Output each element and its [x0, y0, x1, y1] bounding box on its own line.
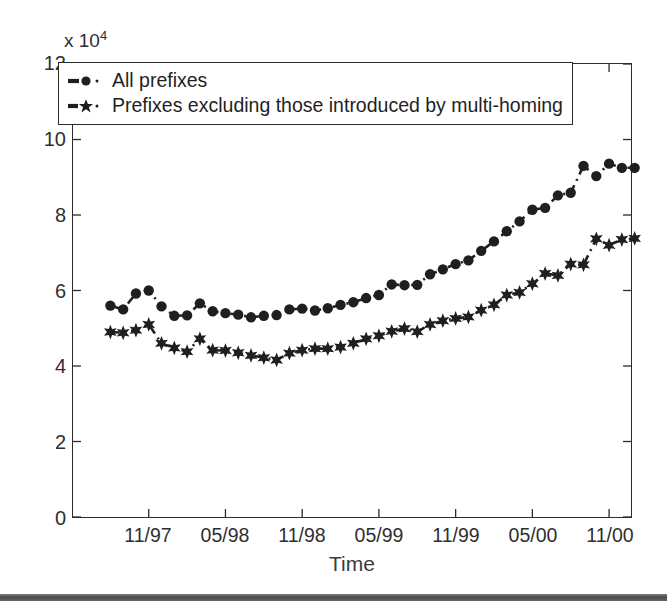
data-point [604, 158, 614, 168]
legend-marker-star-icon [66, 96, 110, 116]
data-point [297, 303, 307, 313]
y-axis-multiplier-label: x 104 [64, 28, 107, 52]
data-point [169, 311, 179, 321]
x-axis-title: Time [72, 552, 632, 576]
data-point [373, 328, 386, 343]
y-axis-tick-label: 10 [44, 127, 66, 150]
y-axis-multiplier-text: x 10 [64, 30, 100, 51]
data-point [399, 280, 409, 290]
series-line [110, 164, 634, 318]
chart-legend: All prefixes Prefixes excluding those in… [58, 62, 573, 125]
x-axis-tick-label: 05/00 [509, 524, 558, 547]
data-point [411, 324, 424, 339]
x-axis-tick-label: 11/99 [432, 524, 479, 547]
legend-marker-circle-icon [66, 71, 110, 91]
series-line [110, 238, 634, 360]
data-point [168, 341, 181, 356]
y-axis-tick-label: 4 [55, 355, 66, 378]
plot-area [72, 63, 632, 518]
legend-item-excluding-multihoming: Prefixes excluding those introduced by m… [66, 93, 563, 118]
data-point [500, 288, 513, 303]
data-point [540, 203, 550, 213]
data-point [259, 311, 269, 321]
data-point [425, 269, 435, 279]
data-point [463, 255, 473, 265]
series-all-prefixes [105, 158, 640, 322]
data-point [361, 293, 371, 303]
y-axis-tick-label: 2 [55, 431, 66, 454]
data-point [514, 216, 524, 226]
y-axis-tick-label: 6 [55, 279, 66, 302]
data-point [310, 305, 320, 315]
data-point [144, 285, 154, 295]
data-point [193, 331, 206, 346]
data-point [387, 279, 397, 289]
data-point [564, 257, 577, 272]
data-point [438, 264, 448, 274]
data-point [412, 280, 422, 290]
data-point [348, 297, 358, 307]
data-point [271, 310, 281, 320]
data-point [489, 236, 499, 246]
plot-canvas [73, 64, 631, 517]
data-point [284, 304, 294, 314]
x-axis-tick-labels: 11/9705/9811/9805/9911/9905/0011/00 [72, 524, 632, 552]
series-excluding-multihoming [104, 231, 641, 367]
y-axis-tick-label: 8 [55, 203, 66, 226]
data-point [347, 336, 360, 351]
legend-label-all-prefixes: All prefixes [110, 71, 207, 91]
x-axis-tick-label: 11/98 [278, 524, 325, 547]
data-point [424, 317, 437, 332]
y-axis-multiplier-exponent: 4 [100, 28, 107, 43]
data-point [629, 163, 639, 173]
data-point [385, 324, 398, 339]
data-point [182, 310, 192, 320]
data-point [270, 353, 283, 368]
data-point [615, 232, 628, 247]
data-point [502, 226, 512, 236]
data-point [283, 346, 296, 361]
data-point [131, 288, 141, 298]
data-point [475, 303, 488, 318]
y-axis-tick-label: 0 [55, 507, 66, 530]
data-point [323, 303, 333, 313]
data-point [603, 238, 616, 253]
data-point [578, 161, 588, 171]
data-point [553, 190, 563, 200]
x-axis-tick-label: 11/00 [586, 524, 633, 547]
data-point [220, 308, 230, 318]
data-point [156, 301, 166, 311]
data-point [105, 300, 115, 310]
data-point [488, 297, 501, 312]
data-point [335, 300, 345, 310]
data-point [118, 304, 128, 314]
data-point [566, 188, 576, 198]
y-axis-tick-labels: 024681012 [14, 63, 66, 518]
legend-item-all-prefixes: All prefixes [66, 68, 563, 93]
x-axis-tick-label: 05/99 [355, 524, 404, 547]
data-point [590, 231, 603, 246]
data-point [476, 246, 486, 256]
legend-label-excluding-multihoming: Prefixes excluding those introduced by m… [110, 96, 563, 116]
data-point [233, 309, 243, 319]
x-axis-tick-label: 11/97 [124, 524, 171, 547]
data-point [591, 171, 601, 181]
data-point [527, 205, 537, 215]
scan-artifact-bar [0, 594, 667, 601]
data-point [374, 290, 384, 300]
data-point [617, 163, 627, 173]
data-point [246, 312, 256, 322]
data-point [207, 306, 217, 316]
chart-figure: x 104 024681012 11/9705/9811/9805/9911/9… [0, 0, 667, 608]
x-axis-tick-label: 05/98 [201, 524, 250, 547]
data-point [450, 259, 460, 269]
data-point [195, 298, 205, 308]
